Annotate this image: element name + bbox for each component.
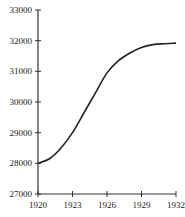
x-axis: 19201923192619291932 xyxy=(29,191,185,210)
x-tick-label: 1920 xyxy=(29,200,48,210)
x-tick-label: 1926 xyxy=(98,200,117,210)
x-tick-label: 1923 xyxy=(64,200,83,210)
x-tick-label: 1932 xyxy=(167,200,185,210)
series-line xyxy=(38,43,176,163)
line-chart: 27000280002900030000310003200033000 1920… xyxy=(0,0,185,217)
y-axis: 27000280002900030000310003200033000 xyxy=(10,5,42,199)
y-tick-label: 33000 xyxy=(10,5,33,15)
x-tick-label: 1929 xyxy=(133,200,152,210)
y-tick-label: 31000 xyxy=(10,66,33,76)
y-tick-label: 32000 xyxy=(10,36,33,46)
y-tick-label: 30000 xyxy=(10,97,33,107)
y-tick-label: 27000 xyxy=(10,189,33,199)
y-tick-label: 28000 xyxy=(10,158,33,168)
y-tick-label: 29000 xyxy=(10,128,33,138)
